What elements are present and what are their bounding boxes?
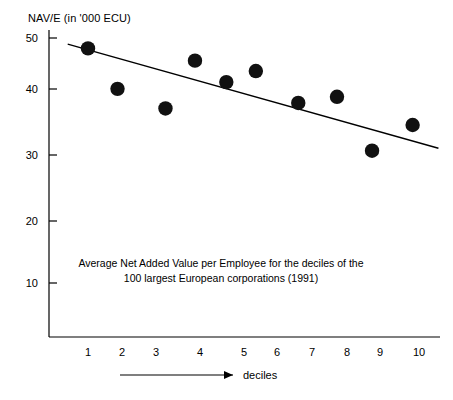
data-point (330, 90, 344, 104)
data-point (291, 96, 305, 110)
plot-area (0, 0, 453, 400)
data-point (110, 82, 124, 96)
data-point-group (81, 41, 420, 158)
data-point (249, 64, 263, 78)
data-point (405, 118, 419, 132)
data-point (81, 41, 95, 55)
x-direction-arrow (120, 371, 233, 379)
data-point (188, 53, 202, 67)
data-point (158, 101, 172, 115)
chart-figure: NAV/E (in '000 ECU) 50 40 30 20 10 1 2 3… (0, 0, 453, 400)
data-point (219, 75, 233, 89)
regression-line (68, 44, 439, 148)
data-point (365, 144, 379, 158)
